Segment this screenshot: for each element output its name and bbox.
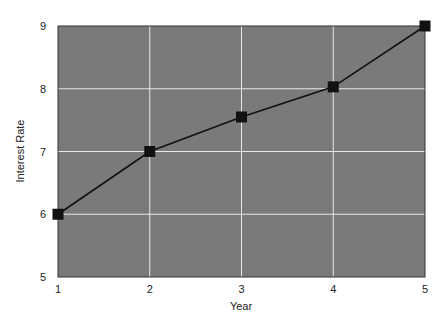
x-tick-label: 1 [55,283,61,295]
x-axis-label: Year [230,300,253,312]
x-tick-label: 2 [147,283,153,295]
y-tick-label: 9 [40,20,46,32]
square-marker-icon [144,146,155,157]
x-tick-label: 4 [330,283,336,295]
y-tick-label: 5 [40,271,46,283]
y-axis-ticks: 56789 [40,20,46,283]
square-marker-icon [328,81,339,92]
y-axis-label: Interest Rate [14,120,26,183]
square-marker-icon [53,209,64,220]
square-marker-icon [236,111,247,122]
x-tick-label: 3 [238,283,244,295]
line-chart: 12345 56789 Year Interest Rate [0,0,444,326]
y-tick-label: 8 [40,83,46,95]
square-marker-icon [420,21,431,32]
x-axis-ticks: 12345 [55,283,428,295]
y-tick-label: 6 [40,208,46,220]
x-tick-label: 5 [422,283,428,295]
y-tick-label: 7 [40,146,46,158]
